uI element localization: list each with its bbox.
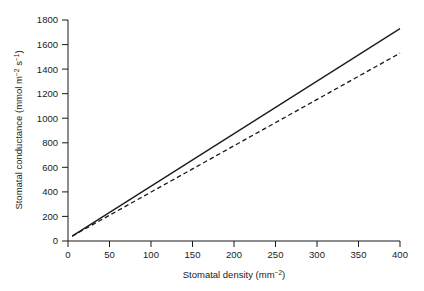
x-axis-ticks [68, 241, 400, 247]
x-tick-label: 300 [309, 249, 325, 260]
y-tick-label: 200 [42, 211, 58, 222]
series-line-dashed [72, 53, 400, 236]
series-line-solid [72, 29, 400, 236]
y-tick-label: 1600 [37, 39, 58, 50]
y-tick-label: 1200 [37, 88, 58, 99]
y-axis-ticks [62, 20, 68, 241]
data-series-group [72, 29, 400, 236]
y-tick-label: 1000 [37, 113, 58, 124]
x-axis-tick-labels: 0 50 100 150 200 250 300 350 400 [65, 249, 408, 260]
x-tick-label: 100 [143, 249, 159, 260]
x-tick-label: 400 [392, 249, 408, 260]
x-tick-label: 50 [104, 249, 115, 260]
x-tick-label: 150 [185, 249, 201, 260]
chart-svg: 0 200 400 600 800 1000 1200 1400 1600 18… [0, 0, 424, 291]
y-tick-label: 0 [53, 235, 58, 246]
y-axis-tick-labels: 0 200 400 600 800 1000 1200 1400 1600 18… [37, 14, 58, 246]
chart-figure: 0 200 400 600 800 1000 1200 1400 1600 18… [0, 0, 424, 291]
x-tick-label: 200 [226, 249, 242, 260]
y-tick-label: 1400 [37, 64, 58, 75]
y-tick-label: 600 [42, 162, 58, 173]
y-tick-label: 1800 [37, 14, 58, 25]
y-tick-label: 400 [42, 186, 58, 197]
x-tick-label: 0 [65, 249, 70, 260]
x-axis-title: Stomatal density (mm−2) [183, 269, 286, 280]
y-axis-title: Stomatal conductance (mmol m−2 s−1) [13, 50, 24, 209]
x-tick-label: 350 [351, 249, 367, 260]
x-tick-label: 250 [268, 249, 284, 260]
y-tick-label: 800 [42, 137, 58, 148]
